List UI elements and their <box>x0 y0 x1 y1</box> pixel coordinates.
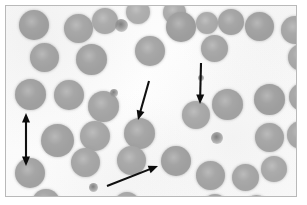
erythrocyte <box>244 195 269 196</box>
platelet <box>198 75 204 81</box>
micrograph-figure <box>0 0 307 205</box>
erythrocyte <box>218 9 244 35</box>
erythrocyte <box>232 164 259 191</box>
erythrocyte <box>32 189 60 196</box>
arrow-head-reverse <box>22 113 30 123</box>
erythrocyte <box>288 44 296 71</box>
micrograph-field <box>6 6 296 196</box>
erythrocyte <box>196 12 218 34</box>
erythrocyte <box>126 6 150 24</box>
erythrocyte <box>15 158 45 188</box>
erythrocyte <box>114 192 140 196</box>
platelet <box>89 183 98 192</box>
erythrocyte <box>166 12 196 42</box>
erythrocyte <box>254 84 285 115</box>
erythrocyte <box>19 10 49 40</box>
erythrocyte <box>289 83 296 111</box>
erythrocyte <box>124 118 155 149</box>
erythrocyte <box>64 14 93 43</box>
erythrocyte <box>281 16 296 44</box>
erythrocyte <box>287 121 296 149</box>
arrow-head <box>148 166 158 173</box>
erythrocyte <box>182 101 210 129</box>
erythrocyte <box>71 148 100 177</box>
erythrocyte <box>135 36 165 66</box>
erythrocyte <box>261 156 287 182</box>
figure-frame <box>5 5 297 197</box>
erythrocyte <box>92 8 118 34</box>
erythrocyte <box>202 194 228 196</box>
erythrocyte <box>41 124 74 157</box>
erythrocyte <box>245 12 274 41</box>
erythrocyte <box>117 146 146 175</box>
erythrocyte <box>30 43 59 72</box>
erythrocyte <box>76 44 107 75</box>
platelet <box>211 132 223 144</box>
erythrocyte <box>196 161 225 190</box>
erythrocyte <box>201 35 228 62</box>
erythrocyte <box>212 89 243 120</box>
erythrocyte <box>161 146 191 176</box>
platelet <box>115 19 128 32</box>
erythrocyte <box>80 121 110 151</box>
platelet <box>110 89 118 97</box>
erythrocyte <box>15 79 46 110</box>
erythrocyte <box>54 80 84 110</box>
erythrocyte <box>255 123 284 152</box>
